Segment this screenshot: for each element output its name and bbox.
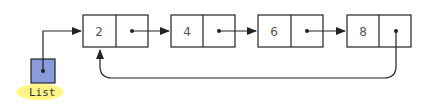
node-1-value: 2 (95, 25, 103, 39)
node-2-value: 4 (183, 25, 191, 39)
node-4: 8 (347, 15, 411, 47)
node-4-value: 8 (359, 25, 367, 39)
node-3-value: 6 (270, 25, 278, 39)
node-1: 2 (83, 15, 169, 47)
node-3: 6 (258, 15, 345, 47)
list-label: List (29, 86, 56, 99)
node-2: 4 (171, 15, 256, 47)
linked-list-diagram: List 2 4 6 8 (0, 0, 433, 105)
